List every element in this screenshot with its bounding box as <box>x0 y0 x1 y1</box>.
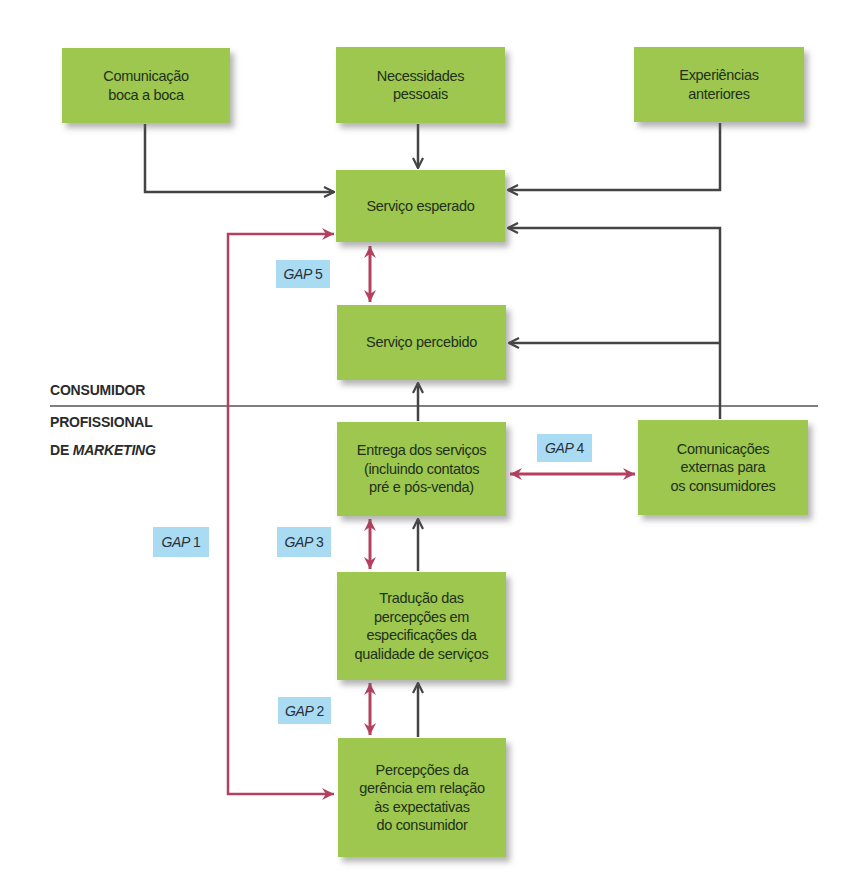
gap-5-label: GAP5 <box>276 260 330 288</box>
label-prefix: DE <box>50 442 73 458</box>
marketer-section-label-line2: DE MARKETING <box>50 442 156 458</box>
gap-number: 1 <box>193 534 200 550</box>
box-management-perceptions: Percepções da gerência em relação às exp… <box>338 738 506 857</box>
gap-number: 2 <box>316 703 323 719</box>
gap-2-label: GAP2 <box>278 697 331 724</box>
box-word-of-mouth: Comunicação boca a boca <box>62 48 230 123</box>
gap-prefix: GAP <box>284 266 312 282</box>
box-personal-needs: Necessidades pessoais <box>336 47 505 123</box>
gap-1-label: GAP1 <box>153 527 209 557</box>
gap-number: 5 <box>315 266 322 282</box>
box-label: Serviço percebido <box>366 333 477 352</box>
box-label: Percepções da gerência em relação às exp… <box>359 761 485 835</box>
box-expected-service: Serviço esperado <box>336 170 505 242</box>
box-label: Entrega dos serviços (incluindo contatos… <box>357 441 486 497</box>
label-italic: MARKETING <box>73 442 156 458</box>
box-service-delivery: Entrega dos serviços (incluindo contatos… <box>337 422 506 516</box>
gap-prefix: GAP <box>285 703 313 719</box>
box-label: Serviço esperado <box>366 197 474 216</box>
gap-3-label: GAP3 <box>277 527 331 557</box>
box-external-communications: Comunicações externas para os consumidor… <box>638 420 808 515</box>
box-translation-specs: Tradução das percepções em especificaçõe… <box>337 572 506 680</box>
box-perceived-service: Serviço percebido <box>337 305 506 380</box>
box-label: Comunicação boca a boca <box>103 67 188 104</box>
gap-prefix: GAP <box>285 534 313 550</box>
gap-4-label: GAP4 <box>537 434 592 462</box>
box-label: Necessidades pessoais <box>377 67 464 104</box>
gap-prefix: GAP <box>162 534 190 550</box>
consumer-section-label: CONSUMIDOR <box>50 382 145 398</box>
gap-number: 4 <box>576 440 583 456</box>
gap-number: 3 <box>316 534 323 550</box>
box-label: Comunicações externas para os consumidor… <box>670 440 775 496</box>
gap-prefix: GAP <box>545 440 573 456</box>
box-past-experience: Experiências anteriores <box>634 47 804 122</box>
marketer-section-label-line1: PROFISSIONAL <box>50 414 153 430</box>
box-label: Tradução das percepções em especificaçõe… <box>355 589 489 663</box>
box-label: Experiências anteriores <box>679 66 758 103</box>
